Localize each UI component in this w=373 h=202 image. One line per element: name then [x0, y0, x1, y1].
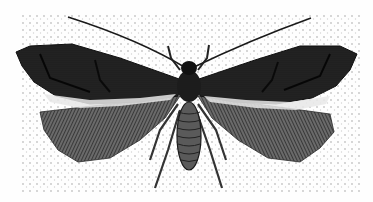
moth-illustration: [0, 0, 373, 202]
head: [181, 61, 197, 75]
abdomen: [177, 102, 201, 170]
